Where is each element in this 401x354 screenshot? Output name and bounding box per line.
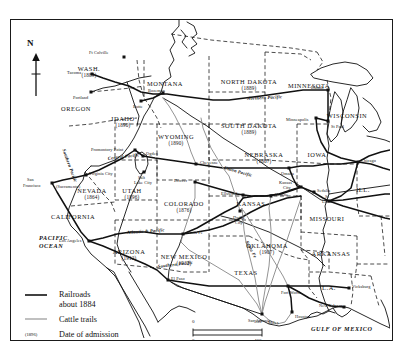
state-name: TEXAS	[234, 269, 257, 276]
gulf-of-mexico-label: GULF OF MEXICO	[311, 325, 372, 333]
state-name: SOUTH DAKOTA	[221, 122, 277, 129]
state-name: L.A.	[322, 284, 336, 291]
state-admission-date: (1876)	[164, 207, 204, 213]
legend-date-line1: Date of admission	[59, 330, 119, 340]
state-admission-date: (1890)	[111, 122, 134, 128]
map-legend: Railroads about 1884 Cattle trails (1896…	[25, 290, 119, 341]
city-label: Abilene	[274, 193, 288, 197]
city-dot	[90, 91, 93, 94]
city-dot	[142, 155, 145, 158]
city-label: Vicksburg	[352, 285, 370, 289]
legend-entry-cattle-trails: Cattle trails	[25, 315, 119, 325]
state-label-arizona: ARIZONA(1912)	[113, 248, 146, 261]
state-name: UTAH	[122, 187, 141, 194]
state-admission-date: (1889)	[221, 129, 277, 135]
city-dot	[140, 100, 143, 103]
historical-map: WASH.(1889)OREGONMONTANAIDAHO(1890)WYOMI…	[0, 0, 401, 354]
city-dot	[327, 120, 330, 123]
state-admission-date: (1889)	[221, 85, 277, 91]
state-label-wisconsin: WISCONSIN	[327, 112, 367, 119]
state-label-south-dakota: SOUTH DAKOTA(1889)	[221, 122, 277, 135]
state-label-montana: MONTANA	[147, 80, 183, 87]
scale-miles-unit: Miles	[268, 320, 278, 325]
city-dot	[195, 163, 198, 166]
city-dot	[348, 287, 351, 290]
state-label-utah: UTAH(1896)	[122, 187, 141, 200]
city-label: Bozeman	[148, 89, 165, 93]
city-label: Omaha	[281, 172, 294, 176]
state-label-iowa: IOWA	[308, 151, 327, 158]
state-label-texas: TEXAS	[234, 269, 257, 276]
scale-miles-max: 300	[254, 319, 262, 324]
state-label-idaho: IDAHO(1890)	[111, 115, 134, 128]
state-name: NEBRASKA	[245, 151, 284, 158]
city-dot	[291, 311, 294, 314]
state-name: COLORADO	[164, 200, 204, 207]
state-name: IDAHO	[111, 115, 134, 122]
north-arrow-icon	[29, 52, 43, 98]
city-dot	[91, 73, 94, 76]
state-name: NORTH DAKOTA	[221, 78, 277, 85]
city-label: New Orleans	[319, 304, 343, 308]
legend-date-sample: (1896)	[25, 330, 59, 337]
state-name: MISSOURI	[310, 215, 345, 222]
state-name: OREGON	[61, 105, 91, 112]
pacific-ocean-label: PACIFICOCEAN	[39, 234, 68, 250]
city-label: Tacoma	[67, 71, 81, 75]
scale-km-max: 400	[254, 338, 262, 341]
cattle-trail-line-icon	[25, 315, 59, 322]
city-dot	[327, 89, 330, 92]
legend-railroads-line2: about 1884	[59, 300, 96, 310]
state-label-oregon: OREGON	[61, 105, 91, 112]
city-dot	[51, 182, 54, 185]
city-dot	[123, 56, 126, 59]
city-label: Francisco	[23, 184, 41, 188]
city-dot	[182, 233, 185, 236]
state-label-nevada: NEVADA(1864)	[77, 187, 106, 200]
city-label: Denver	[174, 179, 187, 183]
scale-rule-icon	[192, 327, 307, 338]
city-label: Ogden	[146, 152, 158, 156]
city-label: Lake City	[134, 181, 152, 185]
city-dot	[134, 149, 137, 152]
state-admission-date: (1890)	[158, 140, 194, 146]
city-dot	[315, 117, 318, 120]
city-dot	[242, 194, 245, 197]
scale-km-zero: 0	[192, 338, 195, 341]
city-label: (Sacramento)	[56, 185, 80, 189]
city-dot	[270, 195, 273, 198]
legend-entry-railroads: Railroads about 1884	[25, 290, 119, 309]
state-name: NEVADA	[77, 187, 106, 194]
scale-bar: 0 300 Miles 0 400 Kilometers	[192, 319, 307, 341]
city-dot	[288, 167, 291, 170]
state-name: ARIZONA	[113, 248, 146, 255]
map-frame: WASH.(1889)OREGONMONTANAIDAHO(1890)WYOMI…	[10, 19, 393, 341]
city-label: Virginia City	[89, 172, 113, 176]
city-dot	[194, 181, 197, 184]
city-label: City	[235, 221, 243, 225]
city-dot	[167, 279, 170, 282]
city-label: El Paso	[171, 277, 185, 281]
city-label: St Paul	[331, 125, 344, 129]
legend-railroads-line1: Railroads	[59, 290, 96, 300]
city-dot	[143, 171, 146, 174]
city-label: Portland	[73, 96, 88, 100]
city-dot	[239, 210, 242, 213]
city-label: Cheyenne	[200, 161, 218, 165]
city-label: Louis	[322, 200, 332, 204]
state-label-kansas: KANSAS	[237, 200, 266, 207]
state-label-arkansas: ARKANSAS	[312, 250, 351, 257]
state-name: KANSAS	[237, 200, 266, 207]
city-dot	[313, 191, 316, 194]
state-name: WYOMING	[158, 133, 194, 140]
state-name: ARKANSAS	[312, 250, 351, 257]
city-label: Duluth	[311, 86, 324, 90]
city-dot	[88, 240, 91, 243]
state-name: NEW MEXICO	[161, 253, 208, 260]
city-label: Fort Worth	[281, 291, 301, 295]
state-label-missouri: MISSOURI	[310, 215, 345, 222]
city-label: Chicago	[361, 159, 376, 163]
ocean-label-line1: PACIFIC	[39, 234, 68, 242]
city-label: Ft Colville	[89, 51, 109, 55]
ocean-label-line1: GULF OF MEXICO	[311, 325, 372, 333]
